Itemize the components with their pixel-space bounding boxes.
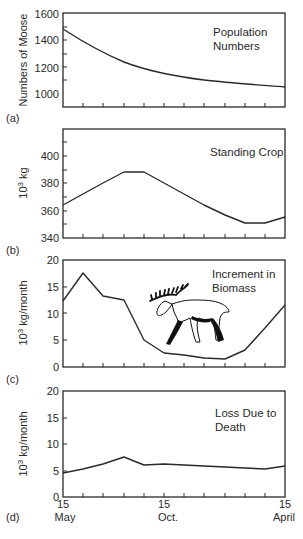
panel-b-standing-crop-line <box>63 172 285 223</box>
panel-c-ytick-5: 5 <box>53 334 59 346</box>
panel-c-ytick-20: 20 <box>47 254 59 266</box>
xtick-right-month: April <box>273 511 295 523</box>
panel-d-title-line2: Death <box>215 421 246 433</box>
panel-a-ylabel: Numbers of Moose <box>17 14 29 107</box>
panel-c: 20 15 10 5 0 103 kg/month Increment in B… <box>6 254 285 385</box>
xtick-left-month: May <box>55 511 76 523</box>
panel-d-ytick-10: 10 <box>47 438 59 450</box>
panel-d-ytick-5: 5 <box>53 465 59 477</box>
panel-c-ytick-0: 0 <box>53 361 59 373</box>
panel-b-ylabel: 103 kg <box>16 167 29 198</box>
panel-c-title-line2: Biomass <box>212 282 256 294</box>
panel-c-label: (c) <box>6 373 19 385</box>
panel-d-loss-line <box>63 457 285 473</box>
panel-a-title-line2: Numbers <box>213 40 260 52</box>
panel-a-label: (a) <box>6 112 19 124</box>
xtick-mid-month: Oct. <box>158 511 178 523</box>
panel-b-ytick-400: 400 <box>41 150 59 162</box>
panel-c-ytick-10: 10 <box>47 308 59 320</box>
panel-d-title-line1: Loss Due to <box>215 407 276 419</box>
xtick-right-day: 15 <box>279 498 291 510</box>
panel-b-ytick-380: 380 <box>41 177 59 189</box>
panel-d-ytick-15: 15 <box>47 412 59 424</box>
xtick-mid-day: 15 <box>158 498 170 510</box>
panel-c-title-line1: Increment in <box>212 268 275 280</box>
panel-d-ylabel: 103 kg/month <box>16 411 29 476</box>
panel-b-label: (b) <box>6 244 19 256</box>
panel-c-ylabel: 103 kg/month <box>16 280 29 345</box>
panel-d-ytick-20: 20 <box>47 385 59 397</box>
xtick-left-day: 15 <box>57 498 69 510</box>
panel-a-ytick-1000: 1000 <box>35 88 59 100</box>
moose-chart-figure: 1600 1400 1200 1000 Numbers of Moose Pop… <box>0 0 303 539</box>
panel-b-ytick-360: 360 <box>41 205 59 217</box>
panel-b: 400 380 360 340 103 kg Standing Crop (b) <box>6 129 285 256</box>
panel-d: 20 15 10 5 0 103 kg/month Loss Due to De… <box>6 385 295 523</box>
panel-a-ytick-1400: 1400 <box>35 34 59 46</box>
panel-a-title-line1: Population <box>213 26 267 38</box>
panel-a-ytick-1200: 1200 <box>35 62 59 74</box>
panel-a-ytick-1600: 1600 <box>35 8 59 20</box>
panel-d-label: (d) <box>6 511 19 523</box>
panel-a: 1600 1400 1200 1000 Numbers of Moose Pop… <box>6 8 285 124</box>
panel-b-ytick-340: 340 <box>41 232 59 244</box>
panel-c-ytick-15: 15 <box>47 281 59 293</box>
panel-b-title: Standing Crop <box>210 146 284 158</box>
